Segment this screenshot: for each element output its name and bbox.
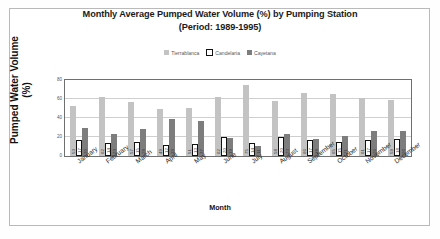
legend-label: Tierrablanca bbox=[171, 50, 199, 56]
legend-swatch-icon bbox=[206, 49, 213, 56]
y-tick-label: 60 bbox=[57, 96, 62, 101]
legend-item-cayetana[interactable]: Cayetana bbox=[247, 50, 276, 56]
x-axis-tick-labels: JanuaryFebruaryMarchAprilMayJuneJulyAugu… bbox=[64, 157, 410, 203]
bar-value-label: 49 bbox=[157, 149, 162, 154]
x-axis-title: Month bbox=[0, 203, 440, 212]
bar-value-label: 15 bbox=[336, 148, 341, 153]
x-tick: June bbox=[208, 157, 237, 203]
bar-value-label: 75 bbox=[244, 149, 249, 154]
legend-item-tierrablanca[interactable]: Tierrablanca bbox=[164, 50, 199, 56]
legend-label: Cayetana bbox=[254, 50, 276, 56]
legend-swatch-icon bbox=[164, 50, 169, 55]
x-tick: September bbox=[295, 157, 324, 203]
y-tick-label: 20 bbox=[57, 134, 62, 139]
legend-item-candelaria[interactable]: Candelaria bbox=[206, 49, 240, 56]
bar-value-label: 65 bbox=[330, 149, 335, 154]
bar-groups: 5317306214235715284912395113376220197514… bbox=[65, 80, 411, 156]
bar-group: 511337 bbox=[180, 80, 209, 156]
bar-group: 751411 bbox=[238, 80, 267, 156]
bar-value-label: 12 bbox=[163, 148, 168, 153]
bar-group: 582023 bbox=[267, 80, 296, 156]
x-tick: November bbox=[352, 157, 381, 203]
legend-label: Candelaria bbox=[215, 50, 240, 56]
x-tick: January bbox=[64, 157, 93, 203]
x-tick: July bbox=[237, 157, 266, 203]
page-title: Monthly Average Pumped Water Volume (%) … bbox=[0, 8, 440, 21]
x-tick: December bbox=[381, 157, 410, 203]
bar-group: 661718 bbox=[296, 80, 325, 156]
x-tick: May bbox=[179, 157, 208, 203]
x-tick: February bbox=[93, 157, 122, 203]
x-tick: March bbox=[122, 157, 151, 203]
bar-value-label: 61 bbox=[359, 149, 364, 154]
bar-value-label: 17 bbox=[77, 148, 82, 153]
bar-value-label: 18 bbox=[394, 148, 399, 153]
chart-title-block: Monthly Average Pumped Water Volume (%) … bbox=[0, 8, 440, 33]
bar-value-label: 15 bbox=[135, 148, 140, 153]
bar-value-label: 20 bbox=[221, 148, 226, 153]
bar-group: 621423 bbox=[94, 80, 123, 156]
bar-value-label: 51 bbox=[186, 149, 191, 154]
bar-value-label: 13 bbox=[192, 148, 197, 153]
y-axis-title-text: Pumped Water Volume bbox=[9, 36, 20, 144]
bar-value-label: 59 bbox=[388, 149, 393, 154]
bar-value-label: 62 bbox=[215, 149, 220, 154]
y-axis-unit-text: (%) bbox=[21, 82, 32, 98]
bar-value-label: 20 bbox=[279, 148, 284, 153]
bar-value-label: 53 bbox=[71, 149, 76, 154]
y-tick-label: 40 bbox=[57, 115, 62, 120]
bar-group: 611726 bbox=[353, 80, 382, 156]
y-axis-title: Pumped Water Volume (%) bbox=[9, 35, 33, 145]
chart-page: Monthly Average Pumped Water Volume (%) … bbox=[0, 0, 440, 239]
plot-area: 020406080 531730621423571528491239511337… bbox=[64, 79, 412, 157]
y-tick-label: 0 bbox=[59, 153, 62, 158]
bar-value-label: 17 bbox=[365, 148, 370, 153]
chart-subtitle: (Period: 1989-1995) bbox=[0, 21, 440, 34]
bar-value-label: 57 bbox=[129, 149, 134, 154]
bar-value-label: 14 bbox=[250, 148, 255, 153]
bar-value-label: 66 bbox=[302, 149, 307, 154]
bar-value-label: 58 bbox=[273, 149, 278, 154]
x-tick: April bbox=[150, 157, 179, 203]
bar-group: 491239 bbox=[151, 80, 180, 156]
bar-group: 531730 bbox=[65, 80, 94, 156]
bar-value-label: 14 bbox=[106, 148, 111, 153]
legend-swatch-icon bbox=[247, 50, 252, 55]
x-tick: August bbox=[266, 157, 295, 203]
y-tick-label: 80 bbox=[57, 77, 62, 82]
x-tick: October bbox=[323, 157, 352, 203]
bar-value-label: 62 bbox=[100, 149, 105, 154]
chart-legend: TierrablancaCandelariaCayetana bbox=[0, 49, 440, 56]
bar-group: 622019 bbox=[209, 80, 238, 156]
bar-value-label: 17 bbox=[308, 148, 313, 153]
